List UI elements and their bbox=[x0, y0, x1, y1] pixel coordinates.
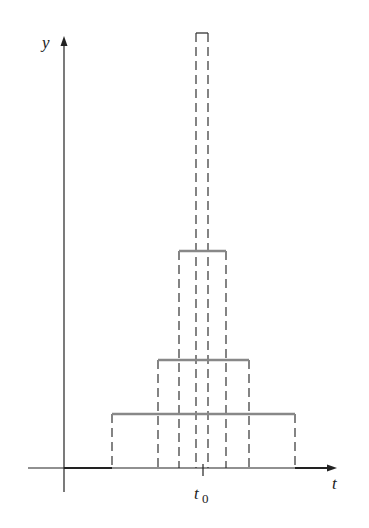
diagram-canvas: ytt0 bbox=[0, 0, 369, 528]
t0-subscript: 0 bbox=[202, 491, 209, 506]
t-axis-label: t bbox=[332, 474, 338, 493]
impulse-diagram: ytt0 bbox=[0, 0, 369, 528]
t0-label: t bbox=[194, 484, 200, 503]
y-axis-label: y bbox=[40, 33, 50, 52]
y-axis-arrow-icon bbox=[61, 36, 68, 46]
